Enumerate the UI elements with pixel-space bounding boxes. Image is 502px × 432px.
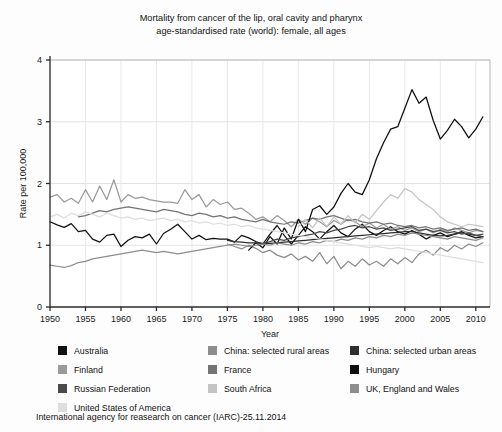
legend-item-hungary: Hungary	[350, 365, 500, 375]
legend-swatch-finland	[58, 365, 67, 374]
legend-swatch-china-rural	[208, 346, 217, 355]
legend-label-united-states: United States of America	[74, 403, 171, 413]
x-tick-label: 1950	[40, 314, 60, 324]
legend-item-uk-england-wales: UK, England and Wales	[350, 384, 500, 394]
chart-figure: Mortality from cancer of the lip, oral c…	[0, 0, 502, 432]
x-axis-title: Year	[261, 329, 279, 339]
legend-item-south-africa: South Africa	[208, 384, 350, 394]
x-tick-label: 1970	[182, 314, 202, 324]
legend-label-russian-federation: Russian Federation	[74, 384, 150, 394]
legend-swatch-united-states	[58, 403, 67, 412]
y-tick-label: 3	[37, 117, 42, 127]
legend-row: Finland France Hungary	[0, 360, 502, 379]
legend-label-china-rural: China: selected rural areas	[224, 346, 329, 356]
legend-label-uk-england-wales: UK, England and Wales	[366, 384, 459, 394]
legend-swatch-uk-england-wales	[350, 384, 359, 393]
legend-item-russian-federation: Russian Federation	[58, 384, 208, 394]
x-tick-label: 1965	[146, 314, 166, 324]
chart-legend: Australia China: selected rural areas Ch…	[0, 341, 502, 417]
x-tick-label: 2000	[395, 314, 415, 324]
legend-item-china-rural: China: selected rural areas	[208, 346, 350, 356]
y-tick-label: 2	[37, 179, 42, 189]
legend-swatch-china-urban	[350, 346, 359, 355]
legend-row: Australia China: selected rural areas Ch…	[0, 341, 502, 360]
legend-item-australia: Australia	[58, 346, 208, 356]
x-tick-label: 2010	[466, 314, 486, 324]
y-tick-label: 4	[37, 55, 42, 65]
legend-item-finland: Finland	[58, 365, 208, 375]
legend-label-finland: Finland	[74, 365, 103, 375]
x-tick-label: 1985	[288, 314, 308, 324]
legend-swatch-australia	[58, 346, 67, 355]
x-tick-label: 1975	[217, 314, 237, 324]
legend-label-australia: Australia	[74, 346, 108, 356]
source-footer: International agency for reasearch on ca…	[36, 412, 286, 422]
x-tick-label: 1955	[75, 314, 95, 324]
legend-swatch-south-africa	[208, 384, 217, 393]
legend-label-china-urban: China: selected urban areas	[366, 346, 476, 356]
legend-swatch-russian-federation	[58, 384, 67, 393]
x-tick-label: 2005	[430, 314, 450, 324]
y-axis-title: Rate per 100,000	[18, 149, 28, 219]
legend-item-united-states: United States of America	[58, 403, 208, 413]
x-tick-label: 1960	[111, 314, 131, 324]
legend-swatch-hungary	[350, 365, 359, 374]
legend-label-france: France	[224, 365, 251, 375]
legend-item-china-urban: China: selected urban areas	[350, 346, 500, 356]
y-tick-label: 0	[37, 302, 42, 312]
y-tick-label: 1	[37, 240, 42, 250]
line-chart-svg: 0123419501955196019651970197519801985199…	[0, 0, 502, 341]
x-tick-label: 1995	[359, 314, 379, 324]
legend-label-south-africa: South Africa	[224, 384, 271, 394]
legend-label-hungary: Hungary	[366, 365, 399, 375]
legend-swatch-france	[208, 365, 217, 374]
x-tick-label: 1980	[253, 314, 273, 324]
legend-item-france: France	[208, 365, 350, 375]
legend-row: Russian Federation South Africa UK, Engl…	[0, 379, 502, 398]
x-tick-label: 1990	[324, 314, 344, 324]
